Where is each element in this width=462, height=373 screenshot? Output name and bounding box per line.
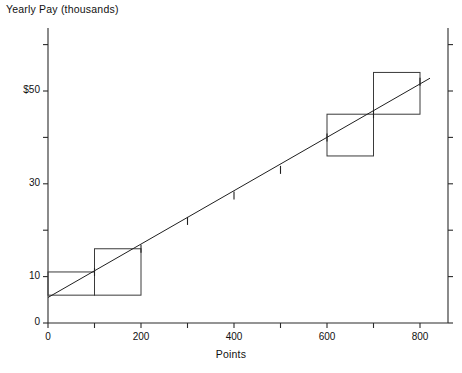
- x-axis-tick-label: 0: [23, 331, 73, 342]
- axes-group: [43, 28, 453, 328]
- residual-square: [374, 72, 421, 114]
- x-axis-tick-label: 600: [302, 331, 352, 342]
- residual-square: [95, 249, 142, 295]
- plot-area: [0, 0, 462, 373]
- regression-line: [48, 78, 430, 297]
- y-axis-tick-label: $50: [23, 84, 40, 95]
- y-axis-tick-label: 0: [34, 316, 40, 327]
- x-axis-tick-label: 200: [116, 331, 166, 342]
- residual-squares-group: [48, 72, 420, 295]
- y-axis-tick-label: 30: [29, 177, 40, 188]
- x-axis-tick-label: 400: [209, 331, 259, 342]
- chart-container: Yearly Pay (thousands) Points 01030$5002…: [0, 0, 462, 373]
- x-axis-tick-label: 800: [395, 331, 445, 342]
- fit-line-group: [48, 78, 430, 297]
- y-axis-tick-label: 10: [29, 270, 40, 281]
- residual-square: [327, 114, 374, 156]
